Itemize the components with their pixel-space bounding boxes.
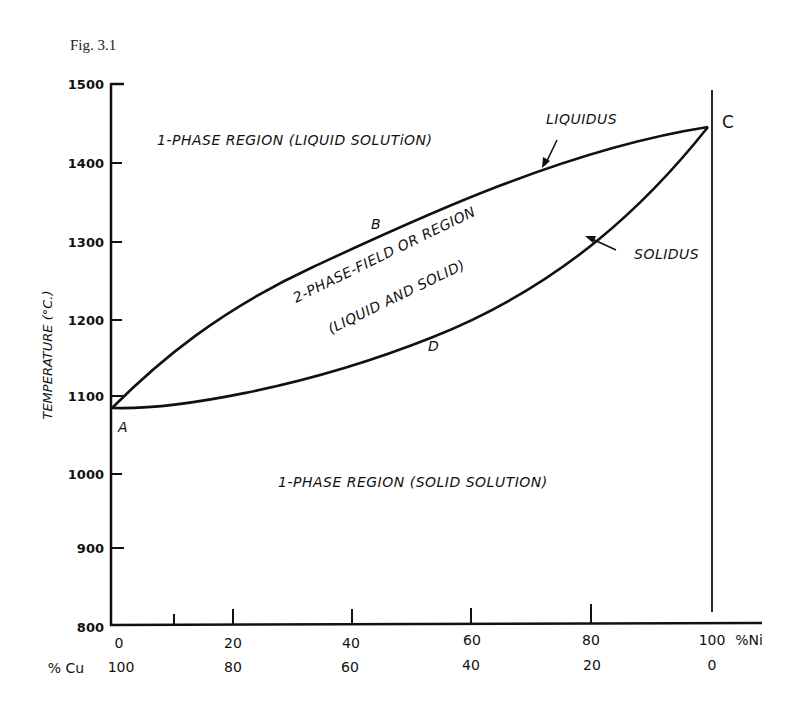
point-d-label: D <box>428 338 439 354</box>
point-a-label: A <box>117 419 128 435</box>
point-c-label: C <box>722 112 734 132</box>
solidus-label: SOLIDUS <box>634 246 699 262</box>
x-tick-label-cu: 80 <box>224 659 242 675</box>
y-ticks <box>111 84 124 548</box>
x-tick-label-cu: 20 <box>583 657 601 673</box>
x-tick-label-cu: 0 <box>708 657 717 673</box>
solid-region-label: 1-PHASE REGION (SOLID SOLUTION) <box>278 474 548 490</box>
x-ticks <box>174 604 591 625</box>
y-tick-label: 1500 <box>68 77 104 92</box>
x-tick-label-ni: 60 <box>463 632 481 648</box>
x-tick-label-ni: 20 <box>224 635 242 651</box>
x-tick-label-ni: 80 <box>582 632 600 648</box>
x-tick-label-cu: 40 <box>462 657 480 673</box>
two-phase-label-line1: 2-PHASE-FIELD OR REGION <box>290 203 478 306</box>
y-tick-label: 1300 <box>68 235 104 250</box>
liquid-region-label: 1-PHASE REGION (LIQUID SOLUTiON) <box>157 132 433 148</box>
x-tick-label-ni: 0 <box>115 635 124 651</box>
y-tick-label: 800 <box>77 620 104 635</box>
x-unit-ni: %Ni <box>735 632 763 648</box>
x-tick-label-cu: 100 <box>108 659 135 675</box>
solidus-curve <box>112 127 708 408</box>
y-tick-label: 1000 <box>68 467 104 482</box>
phase-diagram: 1500 1400 1300 1200 1100 1000 900 800 TE… <box>0 0 807 712</box>
x-tick-label-ni: 100 <box>699 632 726 648</box>
y-tick-label: 1400 <box>68 156 104 171</box>
liquidus-label: LIQUIDUS <box>546 111 617 127</box>
x-tick-label-cu: 60 <box>341 659 359 675</box>
y-tick-label: 900 <box>77 541 104 556</box>
y-tick-label: 1200 <box>68 313 104 328</box>
y-axis-title: TEMPERATURE (°C.) <box>40 290 55 419</box>
x-unit-cu: % Cu <box>48 660 84 676</box>
point-b-label: B <box>371 216 381 232</box>
liquidus-curve <box>112 127 708 408</box>
x-tick-label-ni: 40 <box>342 635 360 651</box>
y-tick-label: 1100 <box>68 389 104 404</box>
x-axis <box>110 623 762 625</box>
